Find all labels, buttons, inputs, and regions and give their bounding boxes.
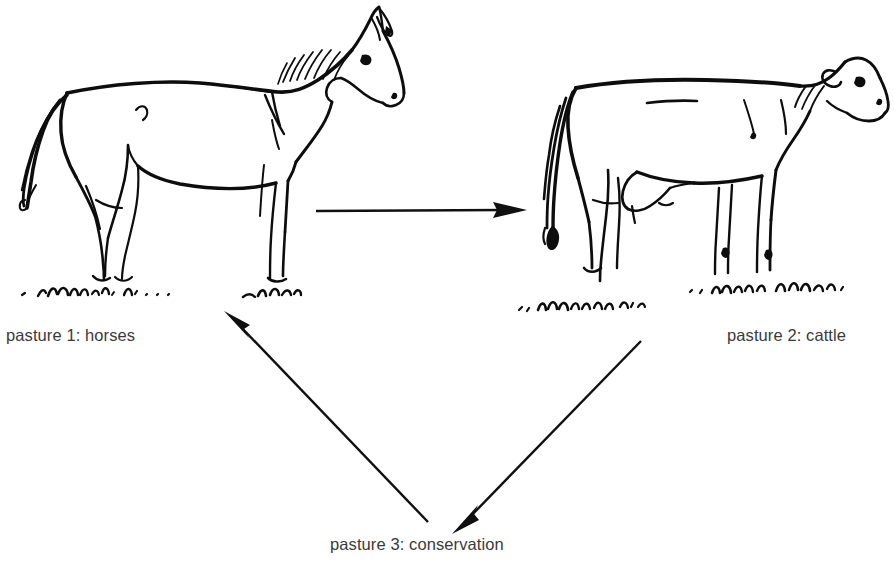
arrow-horses-to-cattle <box>316 202 527 218</box>
label-pasture-1: pasture 1: horses <box>6 326 135 345</box>
cow-sketch <box>519 58 888 311</box>
pasture-rotation-diagram: pasture 1: horses pasture 2: cattle past… <box>0 0 894 561</box>
label-pasture-3: pasture 3: conservation <box>330 535 504 554</box>
label-pasture-2: pasture 2: cattle <box>727 326 846 345</box>
grass-tuft-pasture-2 <box>519 283 843 311</box>
grass-tuft-pasture-1 <box>22 288 301 297</box>
horse-sketch <box>20 7 404 297</box>
arrow-cattle-to-conservation <box>452 341 641 534</box>
arrow-conservation-to-horses <box>224 311 428 522</box>
diagram-canvas <box>0 0 894 561</box>
